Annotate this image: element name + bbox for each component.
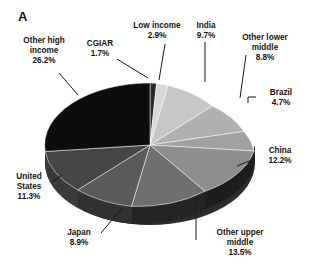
slice-label-brazil-line1: Brazil (258, 88, 304, 98)
slice-label-low-income-value: 2.9% (126, 31, 188, 41)
slice-label-india: India 9.7% (188, 21, 224, 41)
slice-label-japan-line1: Japan (58, 228, 100, 238)
leader-line-other-high-income (59, 73, 78, 95)
slice-label-low-income-line1: Low income (126, 21, 188, 31)
slice-label-china-value: 12.2% (256, 156, 304, 166)
slice-label-other-high-income-line2: income (4, 46, 84, 56)
slice-label-india-line1: India (188, 21, 224, 31)
slice-label-united-states-line1: United (6, 172, 52, 182)
slice-label-other-lower-middle-line1: Other lower (230, 33, 300, 43)
slice-label-other-high-income-line1: Other high (4, 36, 84, 46)
slice-label-brazil-value: 4.7% (258, 98, 304, 108)
slice-label-india-value: 9.7% (188, 31, 224, 41)
panel-label: A (18, 9, 27, 24)
slice-label-china-line1: China (256, 146, 304, 156)
slice-label-united-states-line2: States (6, 182, 52, 192)
slice-label-other-high-income: Other high income 26.2% (4, 36, 84, 67)
slice-label-other-lower-middle-value: 8.8% (230, 53, 300, 63)
slice-label-japan-value: 8.9% (58, 238, 100, 248)
slice-label-united-states: United States 11.3% (6, 172, 52, 203)
slice-label-low-income: Low income 2.9% (126, 21, 188, 41)
slice-label-cgiar-line1: CGIAR (78, 39, 122, 49)
slice-label-united-states-value: 11.3% (6, 192, 52, 202)
slice-label-other-lower-middle: Other lower middle 8.8% (230, 33, 300, 64)
slice-label-other-lower-middle-line2: middle (230, 43, 300, 53)
slice-label-japan: Japan 8.9% (58, 228, 100, 248)
slice-label-other-upper-middle-line2: middle (204, 238, 276, 248)
slice-label-other-upper-middle-line1: Other upper (204, 228, 276, 238)
slice-label-other-upper-middle-value: 13.5% (204, 248, 276, 258)
leader-line-cgiar (117, 59, 148, 78)
slice-label-cgiar: CGIAR 1.7% (78, 39, 122, 59)
slice-label-other-high-income-value: 26.2% (4, 56, 84, 66)
slice-label-other-upper-middle: Other upper middle 13.5% (204, 228, 276, 259)
slice-label-china: China 12.2% (256, 146, 304, 166)
slice-label-cgiar-value: 1.7% (78, 49, 122, 59)
slice-label-brazil: Brazil 4.7% (258, 88, 304, 108)
pie-chart-figure: A Other high income 26.2% CGIAR 1.7% Low… (0, 0, 320, 271)
pie-slice-other-high-income[interactable] (45, 83, 150, 152)
leader-line-low-income (159, 44, 165, 80)
leader-line-brazil (248, 97, 256, 103)
